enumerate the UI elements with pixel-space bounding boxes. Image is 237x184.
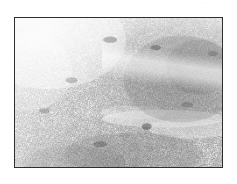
page-canvas: ···· ·· ·	[0, 0, 237, 184]
micrograph-image	[15, 18, 222, 167]
margin-smudge-text: ···· ·· ·	[198, 1, 234, 5]
figure-frame	[14, 17, 223, 168]
micrograph-canvas	[15, 18, 222, 167]
